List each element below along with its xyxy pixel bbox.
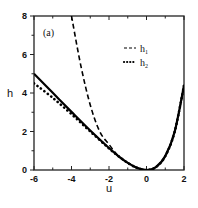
chart: -6-4-20202468 u h (a) h1h2	[0, 0, 198, 208]
legend-label: h2	[140, 57, 148, 69]
x-tick-label: -4	[67, 174, 75, 184]
x-axis-label: u	[106, 182, 112, 194]
series-dashed-line	[72, 16, 185, 170]
y-tick-label: 4	[22, 88, 27, 98]
y-tick-label: 8	[22, 11, 27, 21]
panel-label: (a)	[43, 27, 54, 39]
x-tick-label: -6	[30, 174, 38, 184]
series-solid-line	[34, 74, 184, 170]
y-tick-label: 2	[22, 127, 27, 137]
y-tick-label: 6	[22, 50, 27, 60]
legend: h1h2	[124, 43, 148, 69]
x-tick-label: 0	[144, 174, 149, 184]
legend-label: h1	[140, 43, 148, 55]
y-axis-label: h	[7, 87, 13, 99]
data-series	[34, 16, 184, 170]
x-tick-label: 2	[181, 174, 186, 184]
y-tick-label: 0	[22, 165, 27, 175]
